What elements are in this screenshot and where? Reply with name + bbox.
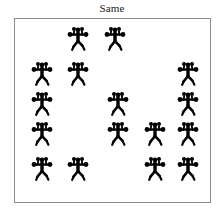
stimulus-canvas: Same	[0, 0, 224, 215]
juggler-figure-icon	[144, 120, 166, 147]
juggler-figure-icon	[67, 25, 89, 52]
juggler-figure-icon	[107, 120, 129, 147]
page-title: Same	[0, 1, 224, 15]
juggler-figure-icon	[177, 60, 199, 87]
juggler-figure-icon	[177, 90, 199, 117]
juggler-figure-icon	[67, 155, 89, 182]
juggler-figure-icon	[144, 155, 166, 182]
juggler-figure-icon	[67, 60, 89, 87]
juggler-figure-icon	[177, 155, 199, 182]
juggler-figure-icon	[31, 155, 53, 182]
juggler-figure-icon	[104, 25, 126, 52]
juggler-figure-icon	[107, 90, 129, 117]
juggler-figure-icon	[177, 120, 199, 147]
juggler-figure-icon	[31, 120, 53, 147]
juggler-figure-icon	[31, 90, 53, 117]
juggler-figure-icon	[31, 60, 53, 87]
